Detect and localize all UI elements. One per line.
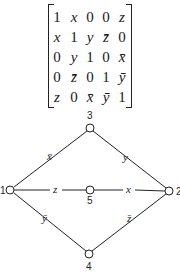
edge-label-1-3: x̄ — [46, 150, 52, 162]
graph-diagram: 1 2 3 4 5 x̄ y z x ȳ z̄ — [0, 0, 180, 276]
node-4 — [85, 250, 93, 258]
node-label-2: 2 — [176, 186, 180, 197]
edge-label-5-2: x — [125, 183, 131, 195]
node-3 — [86, 124, 94, 132]
edge-5-2-b — [135, 190, 165, 191]
edge-label-3-2: y — [122, 151, 128, 163]
edge-3-2 — [93, 131, 166, 188]
edge-1-4 — [14, 193, 86, 251]
node-label-3: 3 — [87, 110, 93, 121]
edge-label-1-4: ȳ — [41, 212, 48, 224]
node-label-5: 5 — [87, 195, 93, 206]
node-2 — [165, 187, 173, 195]
node-label-4: 4 — [86, 261, 92, 272]
edge-label-1-5: z — [52, 183, 58, 195]
node-1 — [6, 186, 14, 194]
node-label-1: 1 — [0, 185, 6, 196]
edge-label-4-2: z̄ — [126, 212, 132, 224]
node-5 — [86, 186, 94, 194]
